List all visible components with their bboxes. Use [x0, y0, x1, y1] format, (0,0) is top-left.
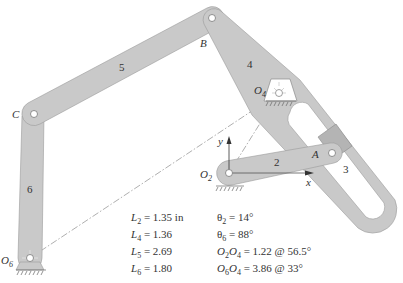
pin-o6 — [27, 255, 34, 262]
given-l5: L5 = 2.69 — [130, 245, 173, 260]
label-c: C — [12, 108, 20, 120]
pin-c — [31, 111, 38, 118]
label-a: A — [311, 148, 319, 160]
link-number-5: 5 — [119, 61, 125, 73]
linkage-diagram: B C A O4 O2 O6 5 4 6 2 3 y x L2 = 1.35 i… — [0, 0, 403, 283]
given-l4: L4 = 1.36 — [130, 228, 173, 243]
given-l6: L6 = 1.80 — [130, 262, 173, 277]
given-o6o4: O6O4 = 3.86 @ 33° — [217, 262, 303, 277]
label-x-axis: x — [305, 176, 311, 188]
pin-a — [329, 150, 336, 157]
link-number-6: 6 — [27, 183, 33, 195]
link-number-3: 3 — [343, 163, 349, 175]
pin-b — [209, 15, 216, 22]
link-4 — [203, 9, 397, 233]
ground-o2 — [216, 186, 244, 191]
given-theta6: θ6 = 88° — [217, 228, 253, 243]
label-o6: O6 — [1, 254, 13, 269]
link-number-2: 2 — [274, 156, 280, 168]
given-lengths: L2 = 1.35 in L4 = 1.36 L5 = 2.69 L6 = 1.… — [130, 211, 184, 277]
pin-o4 — [276, 90, 283, 97]
given-o2o4: O2O4 = 1.22 @ 56.5° — [217, 245, 311, 260]
link-number-4: 4 — [247, 58, 253, 70]
label-b: B — [200, 37, 207, 49]
given-l2: L2 = 1.35 in — [130, 211, 184, 226]
label-o2: O2 — [200, 168, 212, 183]
label-y-axis: y — [217, 135, 223, 147]
pin-o2 — [226, 170, 233, 177]
y-axis-arrow — [227, 136, 232, 144]
given-angles: θ2 = 14° θ6 = 88° O2O4 = 1.22 @ 56.5° O6… — [217, 211, 311, 277]
given-theta2: θ2 = 14° — [217, 211, 253, 226]
